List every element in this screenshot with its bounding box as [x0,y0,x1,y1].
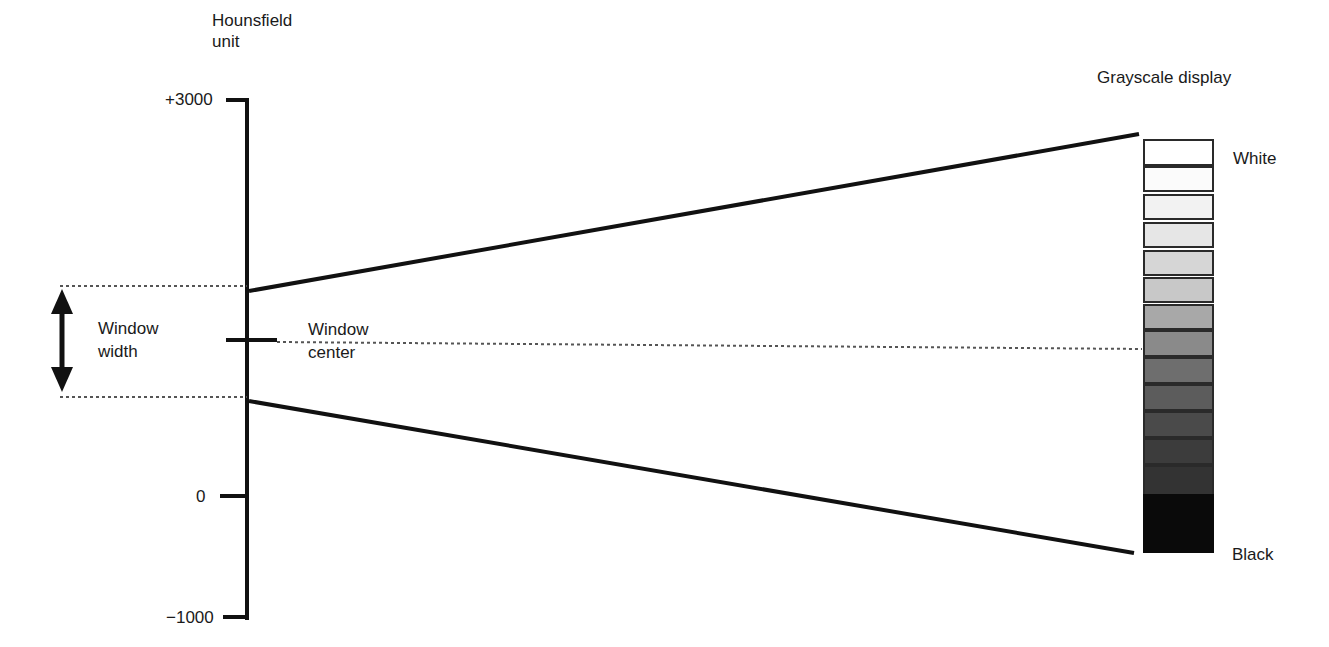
gray-level-6 [1143,277,1214,303]
window-width-label-line2: width [98,341,138,363]
gray-level-11 [1143,411,1214,438]
white-label: White [1233,148,1276,170]
gray-level-12 [1143,438,1214,465]
gray-level-2 [1143,166,1214,192]
window-center-label-line1: Window [308,319,368,341]
axis-title-line1: Hounsfield [212,10,292,32]
gray-level-9 [1143,357,1214,384]
grayscale-title: Grayscale display [1097,67,1231,89]
window-center-dotted-line [277,342,1142,349]
upper-mapping-line [249,134,1139,291]
lower-mapping-line [249,401,1134,553]
window-width-label-line1: Window [98,318,158,340]
window-center-label-line2: center [308,342,355,364]
gray-level-7 [1143,304,1214,330]
gray-level-14 [1143,494,1214,553]
tick-label-zero: 0 [196,486,205,508]
gray-level-5 [1143,250,1214,276]
tick-label-plus3000: +3000 [165,89,213,111]
gray-level-3 [1143,194,1214,220]
gray-level-1 [1143,139,1214,166]
tick-label-minus1000: −1000 [166,607,214,629]
gray-level-4 [1143,222,1214,248]
gray-level-10 [1143,384,1214,411]
window-width-arrow-icon [51,289,73,392]
axis-title-line2: unit [212,31,239,53]
black-label: Black [1232,544,1274,566]
gray-level-13 [1143,465,1214,494]
gray-level-8 [1143,330,1214,357]
